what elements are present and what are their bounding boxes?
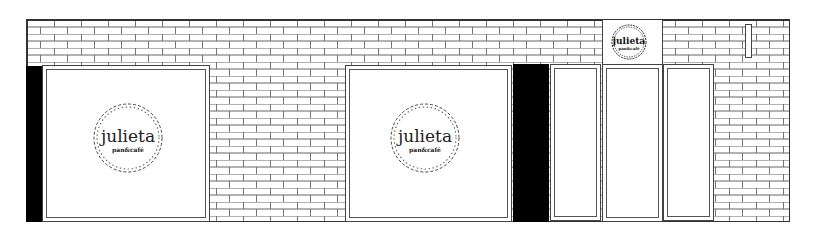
wall-vent-slot: [745, 24, 752, 58]
center-window-logo: julieta pan&café: [389, 102, 461, 174]
svg-text:pan&café: pan&café: [409, 146, 441, 154]
julieta-badge-icon: julieta pan&café: [389, 102, 461, 174]
door-side-panel-right: [663, 64, 714, 221]
svg-text:julieta: julieta: [396, 126, 452, 146]
center-dark-panel: [513, 64, 549, 222]
svg-text:pan&café: pan&café: [618, 46, 640, 51]
svg-text:pan&café: pan&café: [112, 146, 144, 154]
left-dark-panel: [26, 66, 42, 222]
door-side-panel-left: [550, 64, 601, 221]
julieta-badge-icon: julieta pan&café: [611, 24, 647, 60]
svg-text:julieta: julieta: [99, 126, 155, 146]
julieta-badge-icon: julieta pan&café: [92, 102, 164, 174]
left-window-logo: julieta pan&café: [92, 102, 164, 174]
svg-text:julieta: julieta: [612, 36, 646, 46]
door-sign-logo: julieta pan&café: [611, 24, 647, 60]
door-center-panel: [602, 64, 663, 222]
